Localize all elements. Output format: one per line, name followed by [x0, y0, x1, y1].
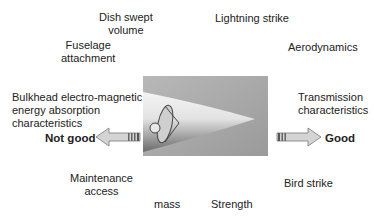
factor-transmission-characteristics: Transmission characteristics — [298, 91, 368, 117]
radome-image — [143, 76, 268, 156]
right-arrow-icon — [276, 127, 322, 147]
factor-dish-swept-volume: Dish swept volume — [99, 11, 153, 37]
label-good: Good — [325, 132, 355, 145]
factor-strength: Strength — [211, 198, 253, 211]
label-not-good: Not good — [45, 132, 95, 145]
factor-fuselage-attachment: Fuselage attachment — [61, 39, 115, 65]
factor-bulkhead-em-absorption: Bulkhead electro-magnetic energy absorpt… — [12, 91, 142, 130]
factor-aerodynamics: Aerodynamics — [288, 41, 358, 54]
factor-maintenance-access: Maintenance access — [70, 172, 133, 198]
left-arrow-icon — [95, 127, 141, 147]
factor-bird-strike: Bird strike — [284, 177, 333, 190]
factor-mass: mass — [154, 198, 180, 211]
factor-lightning-strike: Lightning strike — [215, 12, 289, 25]
